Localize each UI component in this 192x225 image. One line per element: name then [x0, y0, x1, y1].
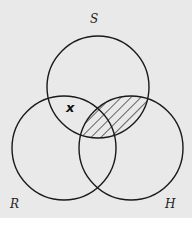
- venn-diagram: S R H x: [0, 0, 192, 225]
- x-marker: x: [65, 100, 75, 115]
- set-s-label: S: [90, 12, 98, 26]
- set-r-circle: [12, 96, 116, 200]
- set-r-label: R: [9, 197, 19, 211]
- set-h-label: H: [164, 197, 176, 211]
